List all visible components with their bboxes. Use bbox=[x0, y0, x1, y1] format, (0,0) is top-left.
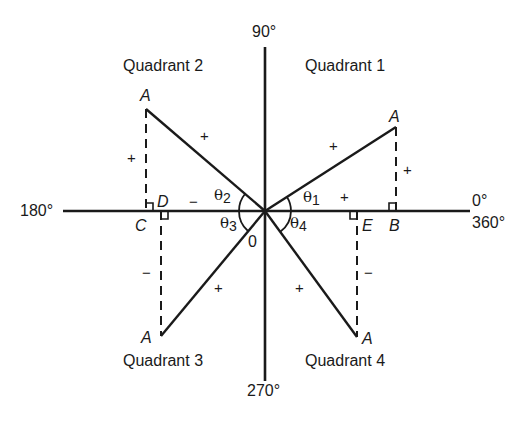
quadrant-3-title: Quadrant 3 bbox=[123, 353, 203, 369]
quadrant-4-title: Quadrant 4 bbox=[305, 353, 385, 369]
axis-label-180: 180° bbox=[20, 203, 53, 219]
q4-foot-e: E bbox=[362, 218, 373, 234]
theta2-arc bbox=[239, 194, 245, 211]
q2-adjacent-sign: − bbox=[189, 194, 198, 209]
theta-4-label: θ4 bbox=[290, 216, 307, 233]
q3-hypotenuse bbox=[161, 211, 265, 336]
quadrant-2-title: Quadrant 2 bbox=[123, 58, 203, 74]
axis-label-0: 0° bbox=[472, 193, 487, 209]
q4-point-a: A bbox=[362, 331, 373, 347]
quadrant-1-title: Quadrant 1 bbox=[305, 58, 385, 74]
q1-hypotenuse-sign: + bbox=[329, 138, 338, 153]
q3-hypotenuse-sign: + bbox=[214, 280, 223, 295]
q3-foot-c: C bbox=[135, 218, 147, 234]
q4-hypotenuse bbox=[265, 211, 357, 337]
q2-hypotenuse-sign: + bbox=[200, 128, 209, 143]
q4-opposite-sign: − bbox=[364, 265, 373, 280]
origin-label: 0 bbox=[248, 234, 257, 250]
quadrant-diagram bbox=[0, 0, 529, 425]
theta-1-label: θ1 bbox=[303, 190, 320, 207]
q3-point-a: A bbox=[141, 330, 152, 346]
q1-foot-b: B bbox=[389, 218, 400, 234]
q1-opposite-sign: + bbox=[403, 162, 412, 177]
q2-opposite-sign: + bbox=[127, 150, 136, 165]
q2-foot-d: D bbox=[157, 194, 169, 210]
axis-label-270: 270° bbox=[247, 383, 280, 399]
theta3-arc bbox=[239, 211, 248, 231]
axis-label-360: 360° bbox=[472, 215, 505, 231]
q1-adjacent-sign: + bbox=[340, 189, 349, 204]
axis-label-90: 90° bbox=[252, 24, 276, 40]
theta-2-label: θ2 bbox=[214, 188, 231, 205]
theta-3-label: θ3 bbox=[220, 216, 237, 233]
theta1-arc bbox=[287, 197, 291, 211]
q4-hypotenuse-sign: + bbox=[295, 280, 304, 295]
q3-opposite-sign: − bbox=[142, 265, 151, 280]
q1-point-a: A bbox=[389, 109, 400, 125]
q2-point-a: A bbox=[140, 88, 151, 104]
